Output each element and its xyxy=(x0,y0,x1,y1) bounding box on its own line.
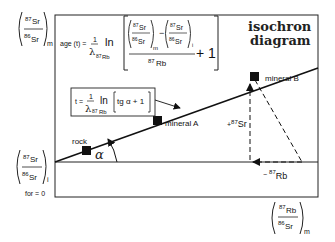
svg-text:−87Rb: −87Rb xyxy=(263,169,287,181)
svg-text:Rb: Rb xyxy=(286,206,297,215)
svg-text:1: 1 xyxy=(93,36,97,43)
svg-text:Sr: Sr xyxy=(175,38,183,45)
svg-text:Sr: Sr xyxy=(176,24,184,31)
svg-text:Sr: Sr xyxy=(138,38,146,45)
for-t-zero-note: for = 0 xyxy=(25,190,45,197)
label-mineral-a: mineral A xyxy=(165,119,199,128)
svg-text:Sr: Sr xyxy=(29,173,37,182)
svg-text:87: 87 xyxy=(170,22,176,28)
svg-text:Rb: Rb xyxy=(156,59,167,68)
delta-rb-sign: − xyxy=(263,171,267,178)
svg-text:tg α + 1: tg α + 1 xyxy=(117,97,145,106)
svg-text:i: i xyxy=(192,42,193,48)
title-line2: diagram xyxy=(250,33,311,48)
x-axis-label: 87 Rb 86 Sr m xyxy=(272,202,310,235)
delta-sr-el: Sr xyxy=(238,119,247,129)
y-axis-measured-label: 87 Sr 86 Sr m xyxy=(19,12,53,47)
point-mineral-a xyxy=(153,116,162,125)
svg-text:Sr: Sr xyxy=(285,222,293,231)
svg-text:+ 1: + 1 xyxy=(196,45,216,61)
svg-text:m: m xyxy=(47,40,53,47)
svg-text:+87Sr: +87Sr xyxy=(227,119,247,129)
slope-formula: t = 1 λ 87 Rb ln tg α + 1 xyxy=(71,88,155,116)
svg-text:Sr: Sr xyxy=(139,24,147,31)
delta-rb-el: Rb xyxy=(276,171,288,181)
svg-text:m: m xyxy=(153,45,158,51)
y-axis-initial-label: 87 Sr 86 Sr i for = 0 xyxy=(17,150,49,197)
pointer-arrow xyxy=(155,100,180,108)
svg-text:86: 86 xyxy=(169,36,175,42)
svg-text:ln: ln xyxy=(105,36,114,48)
svg-text:λ: λ xyxy=(89,46,96,57)
label-rock: rock xyxy=(72,137,88,146)
svg-text:m: m xyxy=(304,228,310,235)
svg-text:86: 86 xyxy=(132,36,138,42)
svg-text:87: 87 xyxy=(133,22,139,28)
svg-text:λ: λ xyxy=(85,103,92,114)
svg-text:87: 87 xyxy=(96,53,102,59)
dashed-diagonal xyxy=(255,80,302,162)
svg-text:−: − xyxy=(159,28,164,38)
svg-text:i: i xyxy=(47,176,49,183)
svg-text:Rb: Rb xyxy=(99,109,107,115)
svg-text:1: 1 xyxy=(89,93,93,100)
svg-text:Sr: Sr xyxy=(30,155,38,164)
svg-text:Rb: Rb xyxy=(102,54,110,60)
angle-label: α xyxy=(95,147,104,162)
age-formula: age (t) = 1 λ 87 Rb ln 87 Sr 86 Sr m − 8… xyxy=(60,16,218,70)
svg-text:Sr: Sr xyxy=(32,17,40,26)
svg-text:87: 87 xyxy=(148,58,155,64)
svg-text:87: 87 xyxy=(92,108,98,114)
point-mineral-b xyxy=(250,72,259,81)
svg-text:ln: ln xyxy=(100,95,108,106)
isochron-diagram: α rock mineral A mineral B +87Sr −87Rb i… xyxy=(0,0,335,242)
label-mineral-b: mineral B xyxy=(265,74,299,83)
svg-text:Sr: Sr xyxy=(31,35,39,44)
svg-text:t =: t = xyxy=(75,98,83,105)
svg-text:age (t) =: age (t) = xyxy=(60,40,86,48)
title-line1: isochron xyxy=(248,19,312,34)
point-rock xyxy=(82,146,91,155)
